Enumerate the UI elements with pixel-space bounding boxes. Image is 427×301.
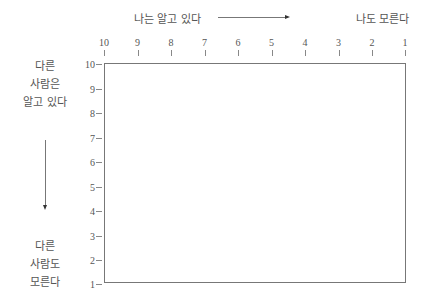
x-tick-mark (405, 50, 406, 56)
y-tick-label: 4 (83, 206, 95, 217)
left-bottom-label: 다른 사람도 모른다 (20, 238, 70, 292)
x-tick-label: 8 (169, 37, 174, 48)
label-line: 사람도 (20, 256, 70, 274)
y-tick-mark (96, 284, 102, 285)
x-tick-label: 4 (303, 37, 308, 48)
right-arrow-icon (218, 17, 286, 18)
y-tick-label: 3 (83, 230, 95, 241)
x-tick-mark (272, 50, 273, 56)
y-tick-label: 6 (83, 157, 95, 168)
y-tick-label: 1 (83, 279, 95, 290)
y-tick-mark (96, 162, 102, 163)
label-line: 다른 (20, 238, 70, 256)
x-tick-mark (339, 50, 340, 56)
x-tick-label: 2 (370, 37, 375, 48)
x-tick-mark (305, 50, 306, 56)
x-tick-label: 6 (236, 37, 241, 48)
y-tick-mark (96, 138, 102, 139)
x-tick-mark (205, 50, 206, 56)
y-tick-label: 2 (83, 255, 95, 266)
x-tick-mark (104, 50, 105, 56)
y-tick-label: 5 (83, 181, 95, 192)
x-tick-mark (138, 50, 139, 56)
top-left-label: 나는 알고 있다 (134, 10, 201, 26)
y-tick-mark (96, 260, 102, 261)
y-tick-label: 7 (83, 132, 95, 143)
y-tick-label: 8 (83, 108, 95, 119)
x-tick-label: 7 (202, 37, 207, 48)
y-tick-mark (96, 64, 102, 65)
x-tick-label: 5 (269, 37, 274, 48)
label-line: 다른 (20, 58, 70, 76)
label-line: 알고 있다 (20, 94, 70, 112)
y-tick-label: 10 (83, 59, 95, 70)
y-tick-mark (96, 187, 102, 188)
down-arrow-icon (45, 140, 46, 206)
x-tick-label: 9 (135, 37, 140, 48)
grid-frame (104, 63, 406, 283)
label-line: 사람은 (20, 76, 70, 94)
x-tick-mark (238, 50, 239, 56)
y-tick-label: 9 (83, 83, 95, 94)
y-tick-mark (96, 113, 102, 114)
y-tick-mark (96, 211, 102, 212)
x-tick-mark (171, 50, 172, 56)
x-tick-label: 10 (99, 37, 109, 48)
y-tick-mark (96, 89, 102, 90)
label-line: 모른다 (20, 274, 70, 292)
y-tick-mark (96, 236, 102, 237)
x-tick-label: 1 (403, 37, 408, 48)
top-right-label: 나도 모른다 (356, 10, 410, 26)
x-tick-label: 3 (336, 37, 341, 48)
x-tick-mark (372, 50, 373, 56)
left-top-label: 다른 사람은 알고 있다 (20, 58, 70, 112)
